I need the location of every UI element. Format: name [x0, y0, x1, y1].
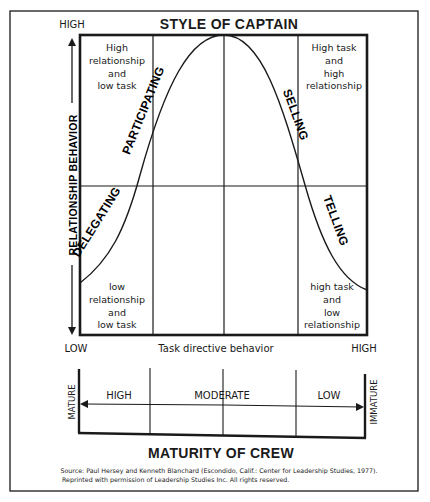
maturity-level-high: HIGH [106, 390, 132, 401]
quadrant-bottom-right-line: low [324, 307, 340, 318]
x-axis-low-label: LOW [65, 343, 88, 354]
quadrant-bottom-right-line: high task [310, 281, 354, 292]
quadrant-top-right-line: and [325, 55, 343, 66]
quadrant-bottom-right-line: and [323, 294, 341, 305]
quadrant-top-right-line: high [324, 68, 345, 79]
x-axis-label: Task directive behavior [157, 343, 274, 354]
x-axis-high-label: HIGH [351, 343, 377, 354]
situational-leadership-diagram: STYLE OF CAPTAIN HIGH RELATIONSHIP BEHAV… [0, 0, 430, 502]
maturity-arrow-right [224, 405, 362, 407]
maturity-mature-label: MATURE [67, 384, 77, 419]
quadrant-bottom-left-line: relationship [89, 294, 145, 305]
source-line-2: Reprinted with permission of Leadership … [62, 476, 289, 484]
quadrant-top-left-line: low task [97, 80, 137, 91]
quadrant-bottom-left: low relationship and low task [89, 281, 145, 330]
y-axis-label: RELATIONSHIP BEHAVIOR [67, 114, 79, 255]
maturity-arrow-left [82, 404, 224, 405]
quadrant-bottom-left-line: and [108, 307, 126, 318]
quadrant-bottom-right-line: relationship [304, 319, 360, 330]
quadrant-top-left-line: and [108, 68, 126, 79]
maturity-base-line [78, 433, 366, 438]
quadrant-top-left-line: relationship [89, 55, 145, 66]
quadrant-top-left: High relationship and low task [89, 42, 145, 91]
maturity-immature-label: IMMATURE [369, 379, 379, 424]
maturity-title: MATURITY OF CREW [148, 445, 294, 461]
quadrant-top-left-line: High [106, 42, 128, 53]
diagram-title: STYLE OF CAPTAIN [160, 16, 298, 32]
quadrant-top-right: High task and high relationship [306, 42, 362, 91]
quadrant-bottom-right: high task and low relationship [304, 281, 360, 330]
maturity-level-moderate: MODERATE [194, 390, 250, 401]
maturity-scale [78, 368, 366, 438]
quadrant-bottom-left-line: low [109, 281, 125, 292]
style-selling: SELLING [280, 87, 311, 142]
quadrant-bottom-left-line: low task [97, 319, 137, 330]
quadrant-top-right-line: High task [312, 42, 357, 53]
source-line-1: Source: Paul Hersey and Kenneth Blanchar… [60, 467, 377, 475]
maturity-level-low: LOW [318, 390, 341, 401]
style-telling: TELLING [320, 193, 351, 247]
y-axis-high-label: HIGH [59, 19, 85, 30]
quadrant-top-right-line: relationship [306, 80, 362, 91]
